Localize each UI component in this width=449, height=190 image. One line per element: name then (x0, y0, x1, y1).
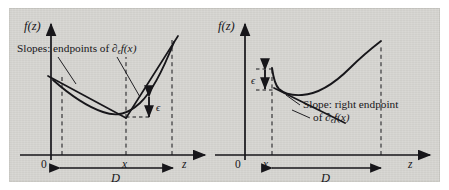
figure-root: ϵ D f(z) 0 x z Slopes: endpoints of ∂ϵf(… (0, 0, 449, 190)
right-jump-curve (272, 41, 381, 95)
left-annotation-suffix: f(x) (121, 42, 137, 55)
right-origin-label: 0 (235, 158, 241, 170)
left-x-axis-label: z (181, 158, 187, 170)
left-tangent-left-endpoint (48, 76, 126, 118)
right-x-tick-label: x (262, 158, 269, 170)
left-annotation-prefix: Slopes: endpoints of (17, 42, 112, 54)
right-annotation-prefix: Slope: right endpoint (303, 98, 399, 110)
left-leader-line-a (58, 57, 76, 84)
left-x-tick-label: x (121, 158, 128, 170)
panel-right: ϵ D f(z) 0 x z Slope: right endpoint of … (215, 19, 430, 185)
panel-left: ϵ D f(z) 0 x z Slopes: endpoints of ∂ϵf(… (17, 19, 205, 185)
left-leader-line-b (117, 57, 140, 97)
right-annotation-of: of (313, 111, 325, 123)
right-epsilon-label: ϵ (251, 75, 256, 86)
left-D-label: D (110, 171, 120, 185)
left-y-axis-label: f(z) (24, 19, 41, 33)
left-origin-label: 0 (41, 158, 47, 170)
right-annotation-suffix: f(x) (334, 111, 350, 124)
right-D-label: D (320, 171, 330, 185)
left-epsilon-label: ϵ (156, 102, 161, 113)
left-slopes-annotation: Slopes: endpoints of ∂ϵf(x) (17, 42, 137, 56)
right-x-axis-label: z (407, 158, 413, 170)
right-y-axis-label: f(z) (218, 19, 235, 33)
right-slope-annotation-line1: Slope: right endpoint (303, 98, 399, 110)
figure-svg: ϵ D f(z) 0 x z Slopes: endpoints of ∂ϵf(… (0, 0, 449, 190)
right-leader-line-b (292, 110, 310, 118)
